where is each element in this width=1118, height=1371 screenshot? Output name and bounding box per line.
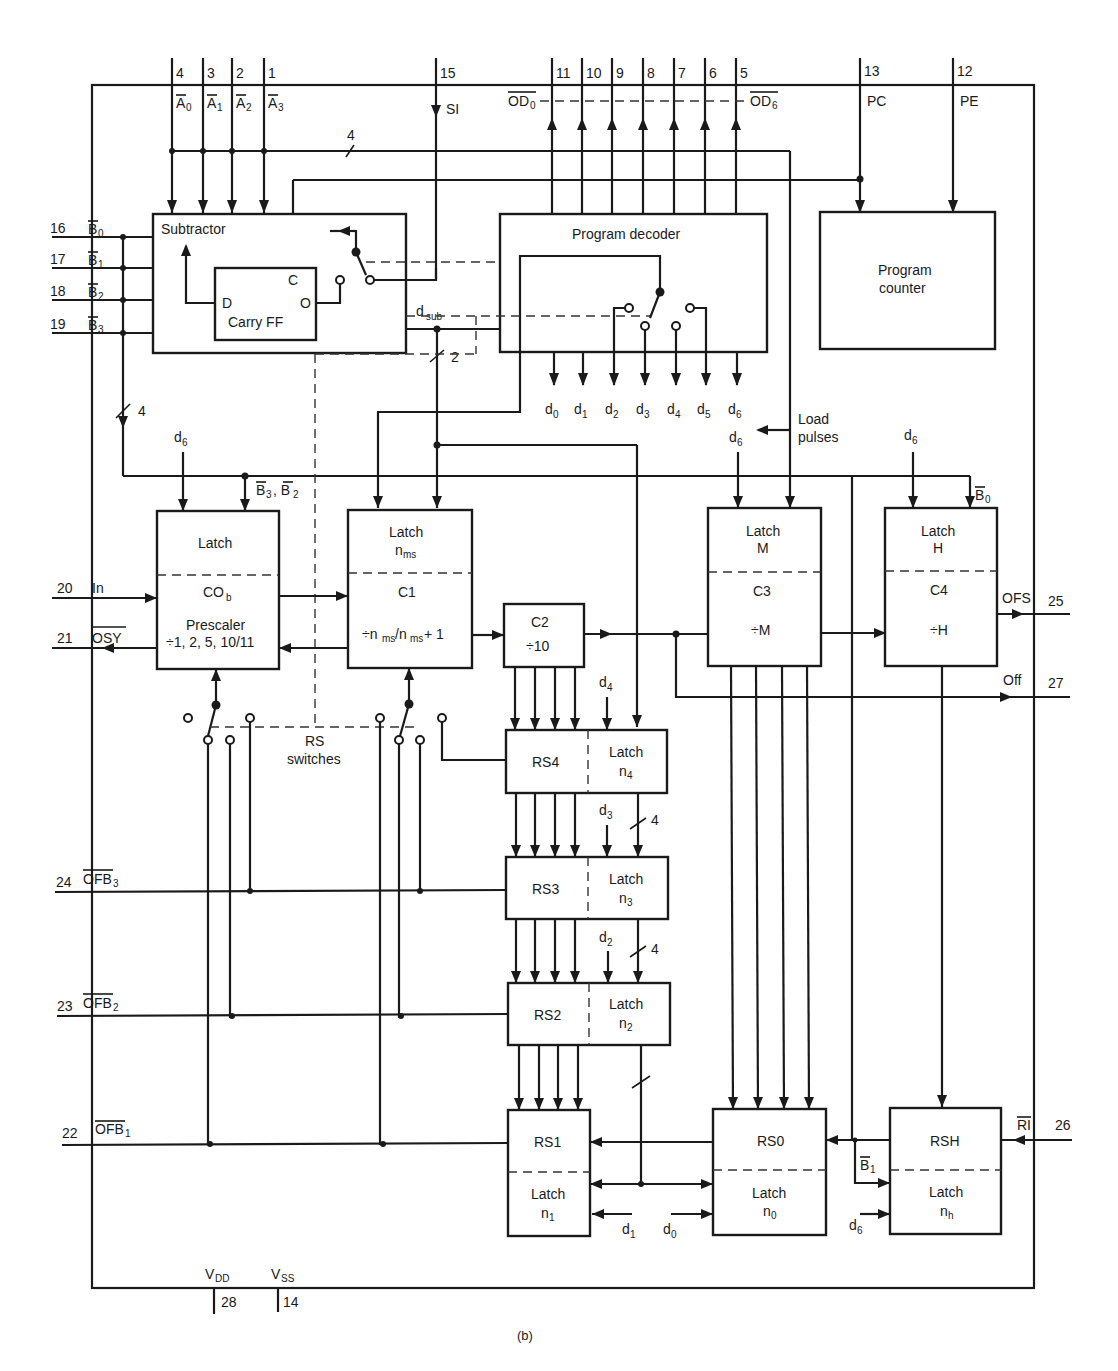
svg-text:D: D: [222, 295, 232, 311]
svg-text:13: 13: [864, 63, 880, 79]
c3-to-rs0-wires: [728, 666, 814, 1109]
svg-text:DD: DD: [215, 1273, 229, 1284]
svg-text:A: A: [207, 95, 217, 111]
svg-text:n: n: [619, 1015, 627, 1031]
load-pulses: Load pulses d6 d6 B0: [729, 411, 991, 508]
svg-text:5: 5: [740, 65, 748, 81]
c3-block: Latch M C3 ÷M: [708, 508, 821, 666]
svg-text:3: 3: [98, 324, 104, 335]
rs0-block: RS0 Latch n0: [713, 1109, 826, 1235]
svg-text:A: A: [176, 95, 186, 111]
svg-text:RS0: RS0: [757, 1133, 784, 1149]
svg-text:V: V: [205, 1266, 215, 1282]
svg-text:11: 11: [556, 65, 571, 81]
svg-text:d: d: [545, 401, 553, 417]
svg-text:ms: ms: [410, 633, 423, 644]
svg-text:Subtractor: Subtractor: [161, 221, 226, 237]
svg-text:A: A: [236, 95, 246, 111]
svg-text:C3: C3: [753, 583, 771, 599]
svg-text:3: 3: [644, 409, 650, 420]
svg-text:Latch: Latch: [389, 524, 423, 540]
svg-text:27: 27: [1048, 675, 1064, 691]
svg-text:h: h: [948, 1210, 954, 1221]
svg-text:B: B: [975, 487, 984, 503]
svg-text:18: 18: [50, 283, 66, 299]
svg-text:OSY: OSY: [92, 630, 122, 646]
svg-text:RS: RS: [305, 733, 324, 749]
svg-text:d: d: [667, 401, 675, 417]
svg-text:1: 1: [582, 409, 588, 420]
ofs-label: OFS: [1002, 590, 1031, 606]
pin-3: 3: [207, 65, 215, 81]
rs1-block: RS1 Latch n1: [508, 1110, 590, 1236]
svg-text:2: 2: [98, 291, 104, 302]
svg-text:C: C: [288, 272, 298, 288]
svg-text:Latch: Latch: [609, 744, 643, 760]
svg-text:OD: OD: [508, 93, 529, 109]
svg-text:RS1: RS1: [534, 1134, 561, 1150]
svg-text:6: 6: [772, 100, 778, 111]
svg-text:6: 6: [182, 437, 188, 448]
svg-text:SS: SS: [281, 1273, 295, 1284]
svg-text:6: 6: [737, 437, 743, 448]
svg-text:5: 5: [705, 409, 711, 420]
svg-text:M: M: [757, 540, 769, 556]
svg-text:21: 21: [57, 630, 73, 646]
svg-text:Prescaler: Prescaler: [186, 617, 245, 633]
svg-text:OFB: OFB: [95, 1121, 124, 1137]
c1-block: Latch nms C1 ÷nms /nms + 1: [348, 510, 472, 668]
svg-text:Latch: Latch: [609, 871, 643, 887]
svg-text:counter: counter: [879, 280, 926, 296]
svg-text:2: 2: [246, 102, 252, 113]
svg-text:0: 0: [186, 102, 192, 113]
a-bar-labels: A0 A1 A2 A3: [176, 95, 284, 113]
svg-text:25: 25: [1048, 593, 1064, 609]
svg-text:B: B: [88, 284, 97, 300]
svg-text:4: 4: [138, 403, 146, 419]
svg-text:6: 6: [857, 1225, 863, 1236]
svg-text:Latch: Latch: [198, 535, 232, 551]
svg-text:4: 4: [675, 409, 681, 420]
svg-text:Latch: Latch: [929, 1184, 963, 1200]
svg-text:C4: C4: [930, 582, 948, 598]
svg-text:RS2: RS2: [534, 1007, 561, 1023]
svg-text:10: 10: [586, 65, 602, 81]
svg-text:6: 6: [709, 65, 717, 81]
bus-width-4: 4: [347, 127, 355, 143]
svg-text:B: B: [88, 317, 97, 333]
svg-text:d: d: [574, 401, 582, 417]
svg-text:÷H: ÷H: [930, 622, 948, 638]
ri-label: RI: [1017, 1117, 1031, 1133]
svg-text:26: 26: [1055, 1117, 1071, 1133]
svg-text:OFB: OFB: [83, 995, 112, 1011]
svg-text:6: 6: [736, 409, 742, 420]
pin-15: 15: [440, 65, 456, 81]
pin-2: 2: [236, 65, 244, 81]
svg-text:0: 0: [98, 228, 104, 239]
svg-text:8: 8: [647, 65, 655, 81]
svg-text:ms: ms: [403, 549, 416, 560]
svg-text:4: 4: [651, 812, 659, 828]
od-pins: 11 10 9 8 7 6 5 OD0 OD6: [508, 58, 778, 213]
rsh-block: RSH Latch nh: [890, 1108, 1001, 1234]
svg-text:H: H: [933, 540, 943, 556]
svg-text:C1: C1: [398, 584, 416, 600]
decoder-outputs: d0 d1 d2 d3 d4 d5 d6: [545, 401, 742, 420]
svg-text:Latch: Latch: [921, 523, 955, 539]
svg-text:2: 2: [451, 349, 459, 365]
svg-text:1: 1: [549, 1212, 555, 1223]
svg-text:Program decoder: Program decoder: [572, 226, 681, 242]
svg-text:4: 4: [607, 682, 613, 693]
svg-text:RS3: RS3: [532, 881, 559, 897]
pin-1: 1: [268, 65, 276, 81]
svg-text:÷1, 2, 5, 10/11: ÷1, 2, 5, 10/11: [166, 634, 255, 650]
svg-text:4: 4: [651, 941, 659, 957]
svg-text:B: B: [256, 482, 265, 498]
svg-text:0: 0: [530, 100, 536, 111]
svg-text:Latch: Latch: [752, 1185, 786, 1201]
in-osy-pins: 20 In 21 OSY: [52, 580, 157, 653]
svg-text:B: B: [860, 1157, 869, 1173]
svg-text:12: 12: [957, 63, 973, 79]
rs4-block: RS4 Latch n4: [506, 730, 667, 793]
rs3-to-rs2-wires: d2 4: [511, 919, 659, 983]
